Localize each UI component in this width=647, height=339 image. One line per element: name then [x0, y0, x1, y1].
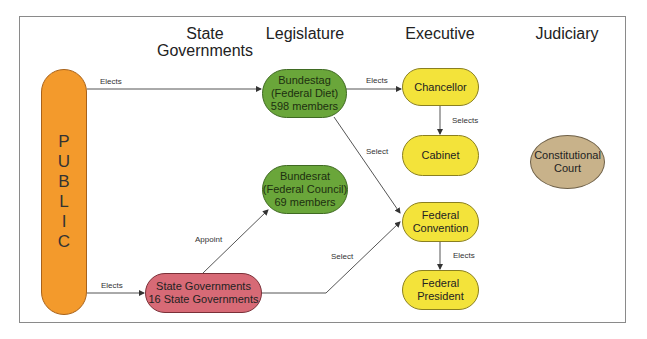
- edge-label-state-convention: Select: [331, 252, 353, 261]
- node-label: Convention: [413, 222, 469, 235]
- public-letter: P: [58, 132, 69, 152]
- public-letter: B: [58, 172, 69, 192]
- node-constitutional-court: Constitutional Court: [530, 135, 605, 189]
- public-letter: I: [62, 212, 67, 232]
- edge-label-convention-president: Elects: [453, 251, 475, 260]
- node-label: (Federal Diet): [271, 87, 338, 100]
- node-federal-convention: Federal Convention: [402, 202, 479, 242]
- node-bundesrat: Bundesrat (Federal Council) 69 members: [262, 165, 348, 214]
- edge-label-bundestag-chancellor: Elects: [366, 76, 388, 85]
- public-letter: U: [58, 152, 70, 172]
- node-label: (Federal Council): [263, 183, 347, 196]
- edge-label-bundestag-convention: Select: [366, 147, 388, 156]
- node-state-governments: State Governments 16 State Governments: [145, 273, 262, 313]
- node-label: Bundesrat: [280, 170, 330, 183]
- node-label: Federal: [422, 277, 459, 290]
- node-label: President: [417, 290, 463, 303]
- edge-label-public-state: Elects: [101, 281, 123, 290]
- node-label: Bundestag: [278, 74, 331, 87]
- node-chancellor: Chancellor: [402, 68, 479, 106]
- node-public: P U B L I C: [41, 69, 87, 315]
- node-label: 16 State Governments: [148, 293, 258, 306]
- node-label: Federal: [422, 209, 459, 222]
- node-label: State Governments: [156, 280, 251, 293]
- node-cabinet: Cabinet: [402, 135, 479, 176]
- node-label: 69 members: [274, 196, 335, 209]
- node-label: Cabinet: [422, 149, 460, 162]
- node-label: Court: [554, 162, 581, 175]
- node-federal-president: Federal President: [402, 270, 479, 310]
- edge-label-chancellor-cabinet: Selects: [452, 116, 478, 125]
- node-label: Chancellor: [414, 81, 467, 94]
- node-label: 598 members: [271, 100, 338, 113]
- node-bundestag: Bundestag (Federal Diet) 598 members: [262, 69, 347, 118]
- edge-label-state-bundesrat: Appoint: [195, 235, 222, 244]
- public-letter: L: [59, 192, 68, 212]
- edge-label-public-bundestag: Elects: [100, 77, 122, 86]
- public-letter: C: [58, 232, 70, 252]
- node-label: Constitutional: [534, 149, 601, 162]
